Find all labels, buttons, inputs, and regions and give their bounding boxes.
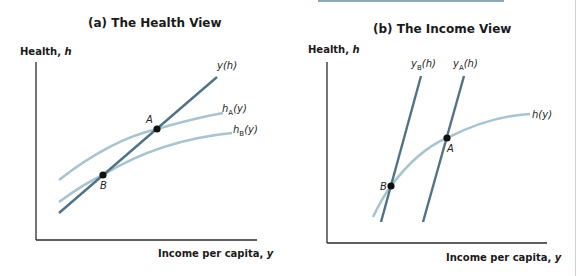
panel-b-label-yA: yA(h) [452,58,478,72]
panel-a-label-hB: hB(y) [233,124,258,138]
panel-a-point-A-label: A [145,114,153,125]
panel-a-point-B [99,171,106,178]
panel-b-point-A-label: A [446,143,454,154]
panel-b-point-B [387,182,394,189]
panel-a-line-y-of-h [59,77,217,213]
panel-a-label-y-of-h: y(h) [216,60,237,71]
panel-b-point-B-label: B [380,181,387,192]
panel-b-label-h-of-y: h(y) [532,109,552,120]
panel-a-point-A [153,125,160,132]
panel-b-axes [327,62,547,243]
panel-b-point-A [443,134,450,141]
panel-a-axes [36,62,257,240]
panel-a-point-B-label: B [100,180,107,191]
panel-a-label-hA: hA(y) [222,103,247,117]
panel-a-curve-hA [59,113,223,180]
panel-b-line-yB [381,76,421,222]
panel-b-label-yB: yB(h) [410,58,436,72]
diagram-canvas: A B y(h) hA(y) hB(y) A B yB(h) yA(h) h(y… [0,0,580,276]
